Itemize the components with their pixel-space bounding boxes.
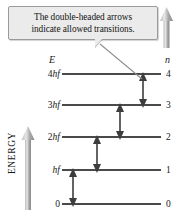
level-lines xyxy=(62,74,161,204)
diagram-overlay xyxy=(0,0,181,219)
energy-direction-arrow xyxy=(22,126,35,210)
energy-level-diagram-figure: The double-headed arrows indicate allowe… xyxy=(0,0,181,219)
transition-arrow-2hf-to-3hf xyxy=(116,103,124,140)
transition-arrow-hf-to-2hf xyxy=(93,135,101,173)
transition-arrow-0-to-hf xyxy=(69,168,77,207)
quantum-number-direction-arrow xyxy=(160,7,173,48)
transition-arrows xyxy=(69,72,147,207)
